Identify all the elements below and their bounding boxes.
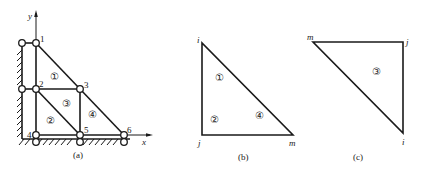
element-label-1: ① <box>215 72 224 83</box>
vertex-label-j: j <box>197 138 201 148</box>
panel-c: m j i ③ (c) <box>307 32 409 162</box>
node-label-4: 4 <box>27 130 32 140</box>
caption-b: (b) <box>238 152 249 162</box>
element-label-4: ④ <box>255 110 264 121</box>
node-label-5: 5 <box>84 125 89 135</box>
node-1 <box>33 40 40 47</box>
vertex-label-j: j <box>405 37 409 47</box>
y-axis-label: y <box>27 11 32 21</box>
vertex-label-i: i <box>197 35 200 45</box>
y-axis: y <box>27 10 38 43</box>
panel-a: y x <box>17 10 153 160</box>
element-label-3: ③ <box>62 98 71 109</box>
element-label-1: ① <box>50 71 59 82</box>
node-5 <box>77 132 84 139</box>
node-label-2: 2 <box>39 79 44 89</box>
element-label-2: ② <box>210 114 219 125</box>
fem-mesh-figure: y x <box>0 0 424 175</box>
node-label-1: 1 <box>40 34 45 44</box>
caption-c: (c) <box>353 152 363 162</box>
x-axis-label: x <box>141 137 146 147</box>
node-label-6: 6 <box>127 125 132 135</box>
caption-a: (a) <box>73 150 83 160</box>
element-label-4: ④ <box>88 109 97 120</box>
element-label-2: ② <box>46 115 55 126</box>
node-3 <box>77 86 84 93</box>
vertex-label-m: m <box>289 138 296 148</box>
vertex-label-i: i <box>402 137 405 147</box>
node-4 <box>33 132 40 139</box>
panel-b: i j m ① ② ④ (b) <box>197 35 296 162</box>
vertex-label-m: m <box>307 32 314 42</box>
node-label-3: 3 <box>84 80 89 90</box>
x-axis: x <box>124 133 153 147</box>
element-label-3: ③ <box>372 66 381 77</box>
triangle-c <box>313 42 403 133</box>
